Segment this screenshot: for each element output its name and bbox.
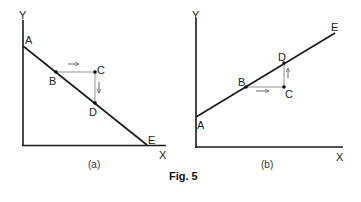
point-d	[93, 101, 97, 105]
label-a: A	[197, 119, 205, 131]
label-c: C	[285, 88, 293, 100]
panel-a: Y X A B C D E (a)	[19, 9, 167, 170]
label-d: D	[278, 51, 286, 63]
y-axis-label: Y	[19, 9, 27, 21]
label-d: D	[89, 106, 97, 118]
label-b: B	[49, 75, 56, 87]
line-ae	[23, 46, 147, 145]
label-e: E	[148, 134, 155, 146]
label-b: B	[238, 76, 245, 88]
label-a: A	[25, 34, 33, 46]
label-e: E	[331, 21, 338, 33]
x-axis-label: X	[159, 149, 167, 161]
caption-b: (b)	[261, 159, 273, 170]
point-b	[54, 70, 58, 74]
line-ae	[196, 33, 335, 117]
panel-b: Y X A B C D E (b)	[192, 9, 344, 170]
caption-a: (a)	[88, 159, 100, 170]
figure-title: Fig. 5	[169, 170, 198, 182]
label-c: C	[97, 64, 105, 76]
figure-5-diagram: Y X A B C D E (a) Y X A B C D E	[0, 0, 361, 202]
x-axis-label: X	[336, 151, 344, 163]
y-axis-label: Y	[192, 9, 200, 21]
